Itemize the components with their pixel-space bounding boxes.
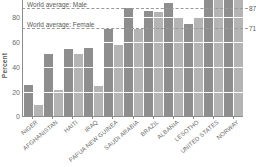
reference-line-value: 87	[249, 5, 256, 12]
reference-line-label: World average: Male	[26, 1, 88, 8]
bar-chart: Percent 0 20 40 60 80 World average: Mal…	[0, 0, 256, 167]
x-tick-mark	[153, 116, 154, 119]
x-tick-mark	[72, 116, 73, 119]
x-tick-mark	[233, 116, 234, 119]
reference-line-label: World average: Female	[26, 21, 95, 28]
bar-female	[94, 86, 103, 116]
reference-line-value: 71	[249, 25, 256, 32]
bar-male	[124, 8, 133, 116]
x-tick-mark	[52, 116, 53, 119]
y-axis-line	[22, 0, 23, 117]
bar-male	[24, 85, 33, 116]
bar-female	[74, 54, 83, 116]
bar-female	[34, 105, 43, 116]
bar-male	[84, 48, 93, 116]
x-tick-mark	[193, 116, 194, 119]
bar-male	[184, 24, 193, 116]
gridline-80	[22, 17, 243, 18]
x-tick-mark	[92, 116, 93, 119]
gridline-40	[22, 67, 243, 68]
bar-female	[114, 45, 123, 116]
bar-male	[164, 3, 173, 116]
x-tick-mark	[112, 116, 113, 119]
reference-line	[22, 28, 248, 29]
bar-male	[44, 54, 53, 116]
x-tick-mark	[173, 116, 174, 119]
x-tick-mark	[32, 116, 33, 119]
x-tick-mark	[133, 116, 134, 119]
reference-line	[22, 8, 248, 9]
bar-male	[64, 49, 73, 116]
gridline-20	[22, 92, 243, 93]
bar-male	[144, 11, 153, 116]
plot-area	[0, 0, 256, 122]
x-tick-label: UNITED STATES	[179, 119, 219, 154]
bars-layer	[0, 0, 256, 122]
bar-female	[54, 90, 63, 116]
x-tick-mark	[213, 116, 214, 119]
gridline-60	[22, 42, 243, 43]
